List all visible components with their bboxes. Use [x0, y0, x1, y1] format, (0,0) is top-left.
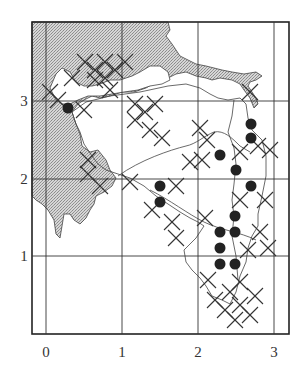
cross-marker	[147, 96, 163, 112]
dot-marker	[215, 243, 226, 254]
cross-marker	[122, 174, 138, 190]
cross-marker	[168, 178, 184, 194]
cross-marker	[247, 288, 263, 304]
cross-marker	[197, 210, 213, 226]
dot-marker	[230, 211, 241, 222]
dot-marker	[155, 181, 166, 192]
dot-marker	[215, 150, 226, 161]
cross-marker	[194, 152, 210, 168]
dot-marker	[230, 227, 241, 238]
y-tick-label: 1	[20, 248, 28, 264]
cross-marker	[76, 102, 92, 118]
dot-marker	[230, 259, 241, 270]
cross-marker	[142, 122, 158, 138]
x-tick-label: 0	[42, 344, 50, 360]
dot-marker	[155, 197, 166, 208]
y-tick-label: 2	[20, 171, 28, 187]
dot-marker	[246, 119, 257, 130]
y-axis-labels: 321	[20, 93, 28, 264]
x-axis-labels: 0123	[42, 344, 278, 360]
dot-marker	[63, 103, 74, 114]
y-tick-label: 3	[20, 93, 28, 109]
cross-marker	[242, 307, 258, 323]
cross-marker	[168, 230, 184, 246]
cross-marker	[200, 272, 216, 288]
dot-marker	[215, 259, 226, 270]
cross-marker	[154, 130, 170, 146]
cross-marker	[137, 104, 153, 120]
distribution-map: 0123 321	[0, 0, 307, 375]
cross-marker	[164, 214, 180, 230]
cross-marker	[257, 192, 273, 208]
cross-marker	[127, 112, 143, 128]
dot-marker	[231, 165, 242, 176]
dot-marker	[246, 181, 257, 192]
x-tick-label: 2	[194, 344, 202, 360]
cross-marker	[182, 154, 198, 170]
dot-marker	[246, 133, 257, 144]
x-tick-label: 1	[118, 344, 126, 360]
dot-marker	[215, 227, 226, 238]
cross-marker	[232, 192, 248, 208]
river-line	[228, 100, 238, 280]
x-tick-label: 3	[270, 344, 278, 360]
cross-marker	[227, 312, 243, 328]
cross-marker	[127, 96, 143, 112]
